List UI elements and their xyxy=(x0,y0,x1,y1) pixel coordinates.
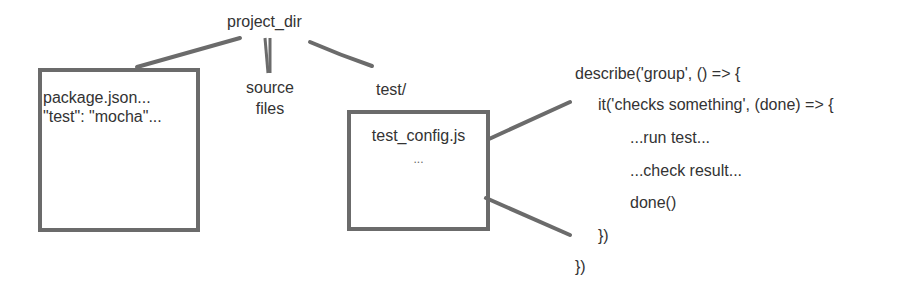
test-config-filename: test_config.js xyxy=(350,126,487,145)
package-json-line-1: package.json... xyxy=(43,88,151,107)
source-files-label-2: files xyxy=(238,99,302,118)
code-line-run-test: ...run test... xyxy=(630,128,710,147)
test-dir-label: test/ xyxy=(376,80,406,99)
test-config-ellipsis: ... xyxy=(350,150,487,169)
root-node-label: project_dir xyxy=(227,12,302,31)
connector-root-test xyxy=(310,42,372,66)
code-line-it: it('checks something', (done) => { xyxy=(598,95,834,114)
source-files-label-1: source xyxy=(238,78,302,97)
code-line-check-result: ...check result... xyxy=(630,161,742,180)
connector-root-source-a xyxy=(265,38,268,73)
code-line-close-describe: }) xyxy=(575,257,586,276)
connector-box-code-bottom xyxy=(486,198,570,235)
code-line-describe: describe('group', () => { xyxy=(575,64,740,83)
code-line-close-it: }) xyxy=(598,226,609,245)
code-line-done: done() xyxy=(630,193,676,212)
package-json-line-2: "test": "mocha"... xyxy=(43,107,162,126)
connector-root-package xyxy=(137,38,240,67)
connector-box-code-top xyxy=(489,102,570,139)
